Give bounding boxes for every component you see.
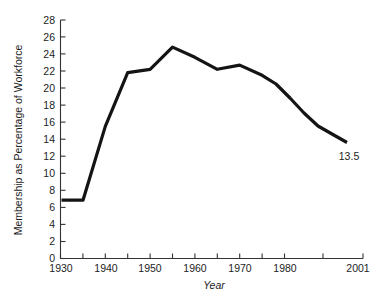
x-tick-label: 1950 <box>138 262 162 274</box>
x-tick-label: 1980 <box>273 262 297 274</box>
chart-container: 0 2 4 6 8 10 12 14 16 18 20 22 24 26 28 <box>0 0 383 301</box>
y-tick-label: 12 <box>43 150 55 162</box>
y-tick-label: 2 <box>49 235 55 247</box>
y-axis-title: Membership as Percentage of Workforce <box>12 45 24 236</box>
y-tick-label: 6 <box>49 201 55 213</box>
y-tick-label: 10 <box>43 167 55 179</box>
x-tick-label: 1940 <box>94 262 118 274</box>
x-tick-label: 1970 <box>228 262 252 274</box>
x-tick-label: 2001 <box>346 262 370 274</box>
y-tick-label: 16 <box>43 116 55 128</box>
y-tick-label: 24 <box>43 48 55 60</box>
y-tick-label: 22 <box>43 65 55 77</box>
x-axis-title: Year <box>203 279 225 291</box>
chart-background <box>0 0 383 301</box>
y-tick-label: 14 <box>43 133 55 145</box>
y-tick-label: 26 <box>43 31 55 43</box>
y-tick-label: 18 <box>43 99 55 111</box>
y-tick-label: 8 <box>49 184 55 196</box>
x-tick-label: 1930 <box>49 262 73 274</box>
x-tick-label: 1960 <box>183 262 207 274</box>
line-chart: 0 2 4 6 8 10 12 14 16 18 20 22 24 26 28 <box>0 0 383 301</box>
y-tick-label: 20 <box>43 82 55 94</box>
y-tick-label: 4 <box>49 218 55 230</box>
y-tick-label: 28 <box>43 14 55 26</box>
end-point-value-label: 13.5 <box>339 150 360 162</box>
